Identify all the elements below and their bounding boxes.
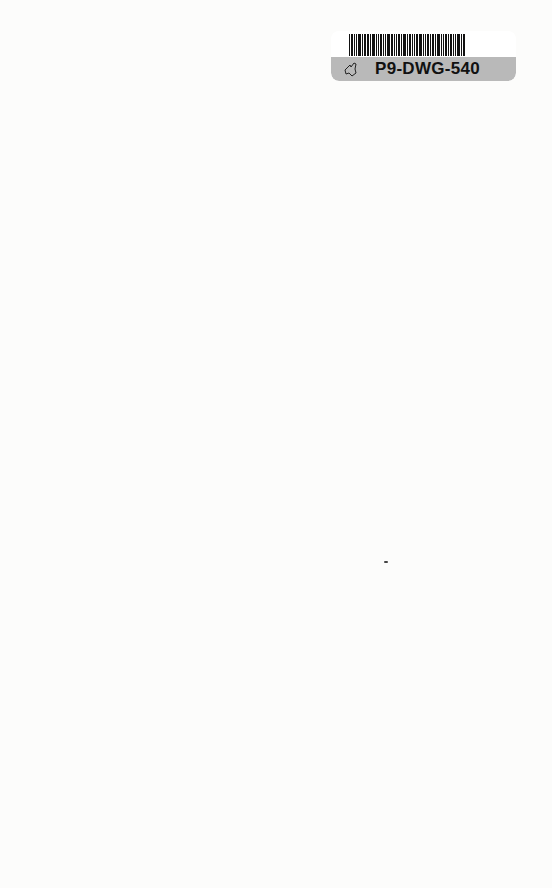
barcode bbox=[349, 34, 501, 56]
barcode-bar bbox=[372, 34, 375, 56]
barcode-bar bbox=[443, 34, 444, 56]
barcode-bar bbox=[414, 34, 415, 56]
barcode-bar bbox=[450, 34, 452, 56]
barcode-bar bbox=[364, 34, 366, 56]
barcode-bar bbox=[432, 34, 434, 56]
state-outline-icon bbox=[343, 61, 359, 77]
barcode-bar bbox=[394, 34, 395, 56]
barcode-bar bbox=[370, 34, 371, 56]
barcode-bar bbox=[455, 34, 456, 56]
barcode-bar bbox=[396, 34, 397, 56]
barcode-bar bbox=[463, 34, 465, 56]
barcode-bar bbox=[376, 34, 377, 56]
barcode-bar bbox=[380, 34, 382, 56]
ink-speck bbox=[384, 561, 388, 563]
barcode-bar bbox=[362, 34, 363, 56]
library-barcode-label: P9-DWG-540 bbox=[331, 31, 516, 81]
barcode-bar bbox=[461, 34, 462, 56]
label-band: P9-DWG-540 bbox=[331, 57, 516, 81]
barcode-bar bbox=[351, 34, 353, 56]
barcode-bar bbox=[453, 34, 454, 56]
barcode-bar bbox=[409, 34, 411, 56]
barcode-bar bbox=[437, 34, 440, 56]
barcode-bar bbox=[367, 34, 369, 56]
barcode-bar bbox=[378, 34, 379, 56]
barcode-bar bbox=[391, 34, 393, 56]
barcode-bar bbox=[412, 34, 413, 56]
barcode-bar bbox=[387, 34, 390, 56]
barcode-bar bbox=[457, 34, 460, 56]
book-page: P9-DWG-540 bbox=[0, 0, 552, 888]
barcode-bar bbox=[385, 34, 386, 56]
barcode-bar bbox=[430, 34, 431, 56]
barcode-bar bbox=[425, 34, 426, 56]
barcode-code-text: P9-DWG-540 bbox=[375, 59, 480, 79]
barcode-bar bbox=[354, 34, 355, 56]
barcode-bar bbox=[416, 34, 418, 56]
faint-stamp bbox=[246, 343, 360, 399]
barcode-bar bbox=[349, 34, 350, 56]
barcode-bar bbox=[401, 34, 402, 56]
barcode-bar bbox=[445, 34, 447, 56]
barcode-bar bbox=[403, 34, 406, 56]
barcode-bar bbox=[435, 34, 436, 56]
barcode-bar bbox=[423, 34, 424, 56]
barcode-bar bbox=[398, 34, 400, 56]
barcode-bar bbox=[407, 34, 408, 56]
barcode-bar bbox=[358, 34, 361, 56]
barcode-bar bbox=[356, 34, 357, 56]
barcode-bar bbox=[383, 34, 384, 56]
barcode-bar bbox=[441, 34, 442, 56]
barcode-bar bbox=[448, 34, 449, 56]
barcode-bar bbox=[419, 34, 422, 56]
barcode-bar bbox=[427, 34, 429, 56]
